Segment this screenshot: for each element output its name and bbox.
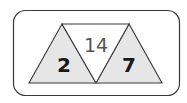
- left-factor-number: 2: [57, 53, 71, 77]
- right-factor-number: 7: [122, 53, 136, 77]
- product-number: 14: [84, 34, 108, 56]
- diagram-canvas: 14 2 7: [0, 0, 187, 103]
